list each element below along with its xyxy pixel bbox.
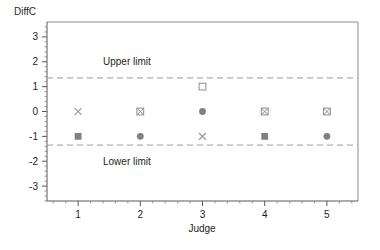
y-axis-title: DiffC (14, 6, 36, 17)
x-tick-label: 5 (324, 209, 330, 220)
x-tick-label: 3 (200, 209, 206, 220)
marker-filled-square (75, 133, 82, 140)
chart-background (0, 0, 380, 250)
y-tick-label: 3 (32, 31, 38, 42)
data-point-filled-circle (137, 133, 144, 140)
marker-filled-circle (324, 133, 331, 140)
x-tick-label: 2 (138, 209, 144, 220)
y-tick-label: -1 (29, 131, 38, 142)
y-tick-label: 2 (32, 56, 38, 67)
x-tick-label: 1 (75, 209, 81, 220)
marker-filled-square (261, 133, 268, 140)
data-point-filled-circle (324, 133, 331, 140)
y-tick-label: -2 (29, 156, 38, 167)
scatterplot-diffc-by-judge: -3-2-10123 12345 Upper limitLower limit … (0, 0, 380, 250)
marker-filled-circle (137, 133, 144, 140)
lower-limit-label: Lower limit (103, 156, 151, 167)
y-tick-label: -3 (29, 181, 38, 192)
data-point-filled-square (75, 133, 82, 140)
y-tick-label: 1 (32, 81, 38, 92)
data-point-filled-circle (199, 108, 206, 115)
upper-limit-label: Upper limit (103, 56, 151, 67)
data-point-filled-square (261, 133, 268, 140)
x-tick-label: 4 (262, 209, 268, 220)
marker-filled-circle (199, 108, 206, 115)
x-axis-title: Judge (188, 223, 216, 234)
y-tick-label: 0 (32, 106, 38, 117)
chart-canvas: -3-2-10123 12345 Upper limitLower limit … (0, 0, 380, 250)
